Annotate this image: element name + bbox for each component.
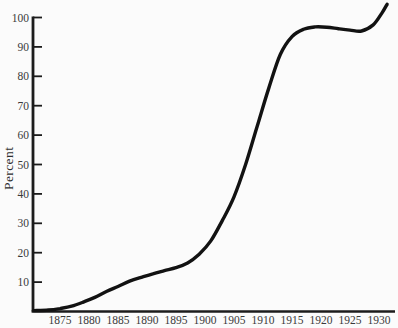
- x-tick-label: 1920: [310, 314, 333, 326]
- y-tick-label: 70: [18, 100, 30, 112]
- y-tick-label: 20: [18, 247, 30, 259]
- x-tick-label: 1905: [223, 314, 246, 326]
- x-tick-label: 1930: [368, 314, 391, 326]
- y-tick-label: 50: [18, 159, 30, 171]
- y-tick-label: 30: [18, 217, 30, 229]
- chart-canvas: 1020304050607080901001875188018851890189…: [0, 0, 398, 328]
- x-tick-label: 1895: [165, 314, 188, 326]
- y-tick-label: 80: [18, 70, 30, 82]
- y-tick-label: 10: [18, 276, 30, 288]
- x-tick-label: 1880: [78, 314, 101, 326]
- y-tick-label: 60: [18, 129, 30, 141]
- x-tick-label: 1890: [136, 314, 159, 326]
- line-chart-figure: 1020304050607080901001875188018851890189…: [0, 0, 398, 328]
- x-tick-label: 1910: [252, 314, 275, 326]
- data-curve: [34, 4, 387, 310]
- x-tick-label: 1875: [49, 314, 72, 326]
- y-tick-label: 90: [18, 41, 30, 53]
- y-tick-label: 100: [12, 12, 30, 24]
- x-tick-label: 1885: [107, 314, 130, 326]
- y-tick-label: 40: [18, 188, 30, 200]
- x-tick-label: 1915: [281, 314, 304, 326]
- x-tick-label: 1925: [339, 314, 362, 326]
- x-tick-label: 1900: [194, 314, 217, 326]
- y-axis-title: Percent: [1, 136, 17, 200]
